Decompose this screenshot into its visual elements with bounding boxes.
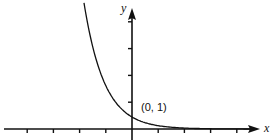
y-axis-label: y: [121, 1, 126, 16]
x-axis-label: x: [264, 121, 269, 136]
exponential-graph: [0, 0, 273, 140]
exponential-curve: [84, 3, 250, 129]
point-label-0-1: (0, 1): [141, 101, 167, 113]
